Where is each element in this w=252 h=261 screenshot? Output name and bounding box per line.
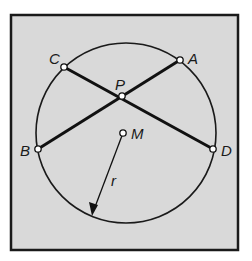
- label-D: D: [221, 142, 232, 159]
- point-P: [119, 93, 125, 99]
- intersecting-chords-diagram: A B C D P M r: [0, 0, 252, 261]
- point-M: [120, 130, 126, 136]
- label-P: P: [115, 76, 125, 93]
- label-C: C: [49, 50, 60, 67]
- point-A: [177, 57, 183, 63]
- label-B: B: [20, 142, 30, 159]
- label-M: M: [131, 125, 144, 142]
- label-A: A: [187, 50, 198, 67]
- point-B: [35, 146, 41, 152]
- point-D: [210, 146, 216, 152]
- point-C: [61, 64, 67, 70]
